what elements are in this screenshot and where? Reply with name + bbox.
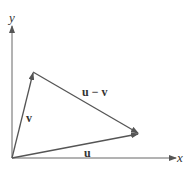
vector-u-minus-v-label: u − v xyxy=(82,85,108,99)
vector-u-minus-v xyxy=(33,72,138,133)
vector-v-label: v xyxy=(26,111,32,125)
x-axis-label: x xyxy=(176,150,183,165)
vector-u-label: u xyxy=(84,146,91,160)
vector-diagram: y x v u u − v xyxy=(0,0,184,175)
vector-u xyxy=(12,134,138,158)
y-axis-label: y xyxy=(7,10,15,25)
